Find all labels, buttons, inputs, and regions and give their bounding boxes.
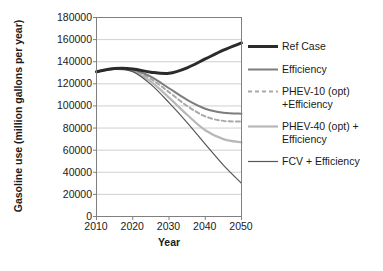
legend-item-label: Efficiency xyxy=(282,63,327,76)
data-series-group xyxy=(97,43,242,183)
plot-border xyxy=(97,18,242,217)
legend-item[interactable]: Efficiency xyxy=(248,63,383,76)
legend-line-swatch-icon xyxy=(248,40,278,52)
x-axis-tick-labels: 20102020203020402050 xyxy=(96,221,242,235)
legend-line-swatch-icon xyxy=(248,155,278,167)
data-series-line xyxy=(97,43,242,74)
x-axis-title: Year xyxy=(96,236,242,248)
x-axis-tick-label: 2010 xyxy=(76,221,116,232)
legend-item[interactable]: FCV + Efficiency xyxy=(248,155,383,168)
legend-item-label: Ref Case xyxy=(282,40,326,53)
x-axis-tick-label: 2050 xyxy=(221,221,261,232)
chart-legend: Ref CaseEfficiencyPHEV-10 (opt) +Efficie… xyxy=(248,40,383,178)
legend-item[interactable]: Ref Case xyxy=(248,40,383,53)
x-axis-tick-label: 2040 xyxy=(185,221,225,232)
data-series-line xyxy=(97,69,242,122)
legend-item-label: FCV + Efficiency xyxy=(282,155,360,168)
data-series-line xyxy=(97,69,242,183)
x-axis-tick-label: 2020 xyxy=(112,221,152,232)
gridlines xyxy=(93,18,242,217)
legend-item[interactable]: PHEV-40 (opt) + Efficiency xyxy=(248,120,383,145)
legend-item-label: PHEV-10 (opt) +Efficiency xyxy=(282,85,350,110)
legend-line-swatch-icon xyxy=(248,85,278,97)
legend-item-label: PHEV-40 (opt) + Efficiency xyxy=(282,120,359,145)
legend-line-swatch-icon xyxy=(248,63,278,75)
legend-item[interactable]: PHEV-10 (opt) +Efficiency xyxy=(248,85,383,110)
chart-figure: Gasoline use (million gallons per year) … xyxy=(0,0,383,271)
x-axis-tick-label: 2030 xyxy=(149,221,189,232)
legend-line-swatch-icon xyxy=(248,120,278,132)
